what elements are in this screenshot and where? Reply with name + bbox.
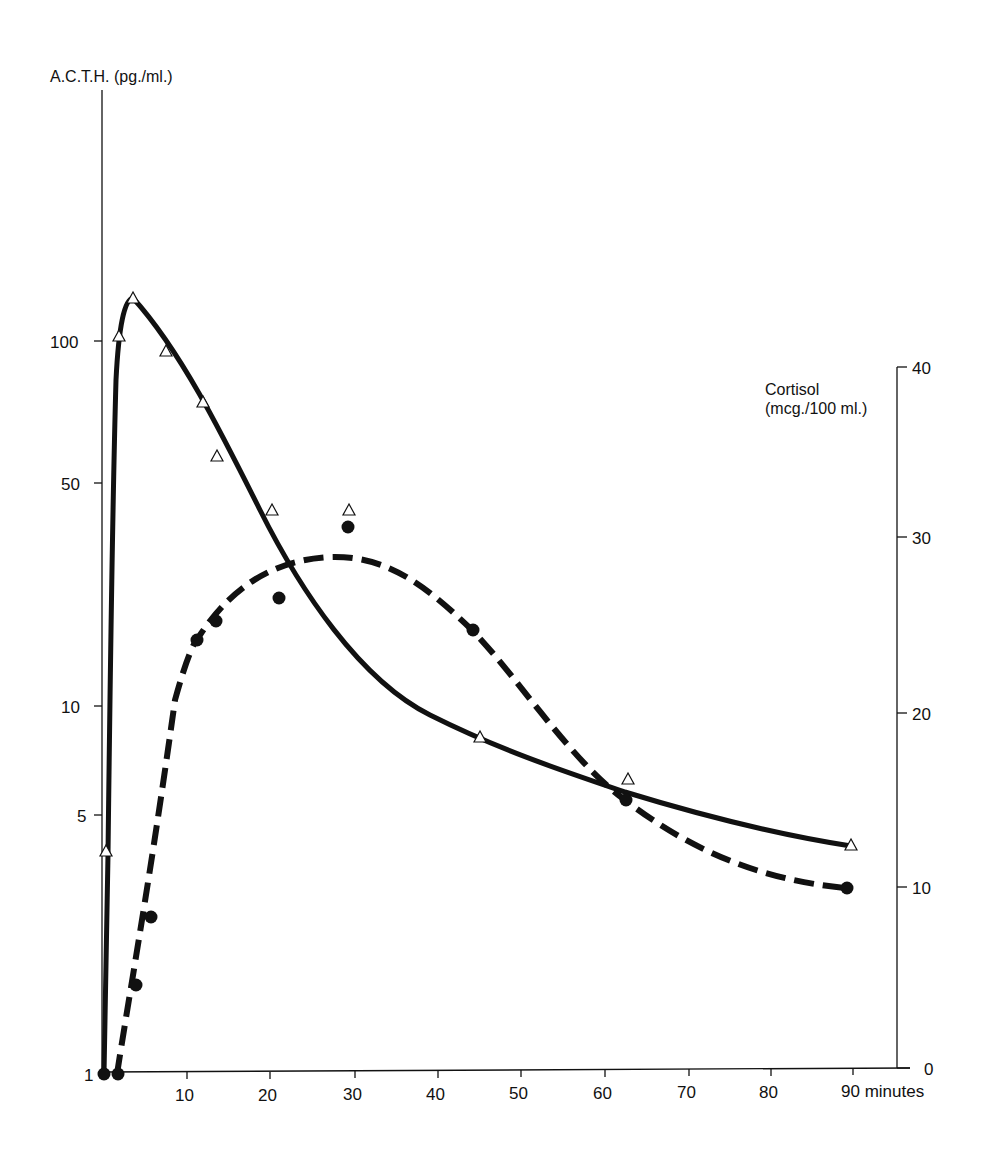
x-tick-80: 80	[759, 1083, 778, 1102]
cortisol-markers	[98, 521, 854, 1081]
left-tick-10: 10	[61, 698, 80, 717]
right-tick-10: 10	[912, 879, 931, 898]
left-tick-5: 5	[77, 807, 86, 826]
right-tick-40: 40	[912, 359, 931, 378]
x-axis	[102, 1068, 910, 1072]
left-tick-100: 100	[50, 333, 78, 352]
x-tick-40: 40	[426, 1085, 445, 1104]
x-tick-10: 10	[175, 1086, 194, 1105]
acth-curve	[104, 298, 851, 1074]
right-axis-title-line1: Cortisol	[765, 381, 819, 398]
x-tick-30: 30	[343, 1085, 362, 1104]
left-y-ticks	[94, 341, 102, 815]
cortisol-curve	[117, 557, 846, 1074]
x-tick-20: 20	[258, 1086, 277, 1105]
x-tick-60: 60	[593, 1084, 612, 1103]
right-tick-0: 0	[924, 1060, 933, 1079]
right-tick-20: 20	[912, 705, 931, 724]
right-axis-title-line2: (mcg./100 ml.)	[765, 400, 867, 417]
right-y-ticks	[897, 367, 910, 1068]
left-tick-1: 1	[84, 1066, 93, 1085]
left-axis-title: A.C.T.H. (pg./ml.)	[50, 68, 173, 85]
left-tick-50: 50	[61, 475, 80, 494]
x-tick-70: 70	[677, 1083, 696, 1102]
x-tick-50: 50	[509, 1084, 528, 1103]
right-tick-30: 30	[912, 529, 931, 548]
x-tick-90-minutes: 90 minutes	[841, 1082, 924, 1101]
chart-canvas: A.C.T.H. (pg./ml.) Cortisol (mcg./100 ml…	[0, 0, 994, 1166]
acth-markers	[100, 292, 857, 856]
